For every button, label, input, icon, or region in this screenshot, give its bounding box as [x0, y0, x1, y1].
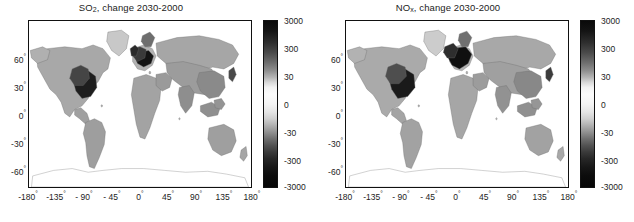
panel-title-nox: NOx, change 2030-2000	[317, 2, 579, 13]
degree-symbol: °	[230, 190, 233, 197]
y-tick-30: 30°	[0, 81, 26, 93]
x-tick-neg90: - 90°	[75, 190, 92, 202]
degree-symbol: °	[199, 190, 202, 197]
degree-symbol: °	[407, 190, 410, 197]
colorbar-tick-0: 0	[601, 100, 606, 110]
x-tick-45: 45°	[162, 190, 174, 202]
map-plot-area-nox	[345, 20, 569, 188]
title-species: SO	[79, 2, 93, 13]
x-tick-0: 0°	[453, 190, 460, 202]
colorbar-tick-300: 300	[601, 44, 615, 54]
degree-symbol: °	[171, 190, 174, 197]
x-tick-neg180: -180°	[335, 190, 355, 202]
colorbar-so2: 3000 300 30 0 -30 -300 -3000	[263, 20, 317, 188]
y-tick-60: 60°	[0, 53, 26, 65]
y-tick-0: 0°	[0, 109, 26, 121]
colorbar-tick-neg30: -30	[601, 128, 613, 138]
y-tick-neg60: -60°	[0, 165, 26, 177]
degree-symbol: °	[488, 190, 491, 197]
colorbar-tick-neg3000: -3000	[284, 182, 306, 192]
colorbar-tick-30: 30	[601, 72, 610, 82]
x-tick-135: 135°	[216, 190, 233, 202]
x-tick-neg90: - 90°	[392, 190, 409, 202]
degree-symbol: °	[340, 53, 343, 60]
colorbar-tick-neg300: -300	[284, 156, 301, 166]
world-map-nox	[346, 21, 568, 187]
title-species: NO	[396, 2, 410, 13]
x-tick-180: 180°	[244, 190, 261, 202]
panel-nox: NOx, change 2030-2000 60° 30° 0° -30° -6…	[317, 0, 634, 222]
colorbar-tick-neg300: -300	[601, 156, 618, 166]
x-tick-135: 135°	[533, 190, 550, 202]
degree-symbol: °	[35, 190, 38, 197]
x-tick-45: 45°	[479, 190, 491, 202]
y-axis-nox: 60° 30° 0° -30° -60°	[317, 20, 343, 188]
x-tick-90: 90°	[190, 190, 202, 202]
degree-symbol: °	[340, 137, 343, 144]
degree-symbol: °	[547, 190, 550, 197]
y-tick-neg30: -30°	[0, 137, 26, 149]
x-tick-neg135: -135°	[46, 190, 66, 202]
colorbar-tick-3000: 3000	[601, 16, 620, 26]
panel-so2: SO2, change 2030-2000 60° 30° 0° -30° -6…	[0, 0, 317, 222]
degree-symbol: °	[352, 190, 355, 197]
colorbar-tick-300: 300	[284, 44, 298, 54]
colorbar-nox: 3000 300 30 0 -30 -300 -3000	[580, 20, 634, 188]
y-tick-neg30: -30°	[317, 137, 343, 149]
x-tick-180: 180°	[561, 190, 578, 202]
x-axis-so2: -180° -135° - 90° - 45° 0° 45° 90° 135° …	[28, 190, 252, 206]
degree-symbol: °	[23, 109, 26, 116]
x-tick-neg180: -180°	[18, 190, 38, 202]
degree-symbol: °	[340, 109, 343, 116]
degree-symbol: °	[90, 190, 93, 197]
title-rest: , change 2030-2000	[97, 2, 183, 13]
y-tick-neg60: -60°	[317, 165, 343, 177]
degree-symbol: °	[23, 165, 26, 172]
degree-symbol: °	[340, 165, 343, 172]
degree-symbol: °	[23, 137, 26, 144]
x-tick-neg135: -135°	[363, 190, 383, 202]
colorbar-tick-neg30: -30	[284, 128, 296, 138]
degree-symbol: °	[258, 190, 261, 197]
title-rest: , change 2030-2000	[414, 2, 500, 13]
degree-symbol: °	[435, 190, 438, 197]
x-tick-0: 0°	[136, 190, 143, 202]
x-tick-neg45: - 45°	[103, 190, 120, 202]
x-tick-neg45: - 45°	[420, 190, 437, 202]
degree-symbol: °	[516, 190, 519, 197]
y-tick-30: 30°	[317, 81, 343, 93]
degree-symbol: °	[141, 190, 144, 197]
x-axis-nox: -180° -135° - 90° - 45° 0° 45° 90° 135° …	[345, 190, 569, 206]
colorbar-tick-neg3000: -3000	[601, 182, 623, 192]
map-plot-area-so2	[28, 20, 252, 188]
y-tick-0: 0°	[317, 109, 343, 121]
colorbar-gradient-nox	[580, 20, 595, 188]
colorbar-tick-3000: 3000	[284, 16, 303, 26]
x-tick-90: 90°	[507, 190, 519, 202]
degree-symbol: °	[575, 190, 578, 197]
panel-title-so2: SO2, change 2030-2000	[0, 2, 262, 13]
degree-symbol: °	[23, 81, 26, 88]
degree-symbol: °	[458, 190, 461, 197]
colorbar-gradient-so2	[263, 20, 278, 188]
degree-symbol: °	[23, 53, 26, 60]
degree-symbol: °	[380, 190, 383, 197]
colorbar-tick-30: 30	[284, 72, 293, 82]
figure-two-panel-emission-maps: SO2, change 2030-2000 60° 30° 0° -30° -6…	[0, 0, 634, 222]
colorbar-tick-0: 0	[284, 100, 289, 110]
degree-symbol: °	[340, 81, 343, 88]
world-map-so2	[29, 21, 251, 187]
degree-symbol: °	[63, 190, 66, 197]
y-tick-60: 60°	[317, 53, 343, 65]
y-axis-so2: 60° 30° 0° -30° -60°	[0, 20, 26, 188]
degree-symbol: °	[118, 190, 121, 197]
